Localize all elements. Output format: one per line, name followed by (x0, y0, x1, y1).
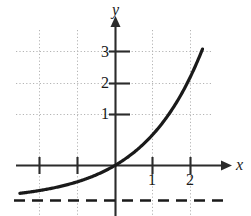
y-axis-label: y (112, 2, 119, 18)
graph-canvas (0, 0, 251, 216)
x-axis-arrowhead (221, 161, 232, 171)
exponential-function-graph: y x 3 2 1 1 2 (0, 0, 251, 216)
y-tick-label-1: 1 (95, 106, 109, 122)
x-axis-label: x (236, 157, 243, 173)
y-tick-label-2: 2 (95, 75, 109, 91)
x-axis (16, 161, 232, 171)
x-tick-label-2: 2 (183, 172, 197, 188)
x-tick-label-1: 1 (145, 172, 159, 188)
y-axis (111, 16, 121, 216)
exponential-curve (20, 49, 203, 193)
y-tick-label-3: 3 (95, 44, 109, 60)
